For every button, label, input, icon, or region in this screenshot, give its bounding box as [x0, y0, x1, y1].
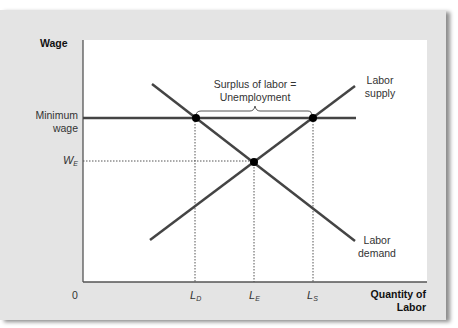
labor-supply-label-line2: supply — [360, 87, 400, 100]
labor-demand-label: Labor demand — [354, 234, 400, 260]
x-axis-label-line1: Quantity of — [360, 288, 426, 301]
equilibrium-point — [250, 158, 258, 166]
y-axis-label: Wage — [40, 37, 68, 50]
surplus-annotation-line2: Unemployment — [205, 91, 305, 104]
labor-supply-label: Labor supply — [360, 74, 400, 100]
le-label: LE — [249, 289, 260, 305]
ls-label: LS — [307, 289, 318, 305]
labor-supply-label-line1: Labor — [360, 74, 400, 87]
ld-label: LD — [190, 289, 201, 305]
we-main: W — [63, 154, 73, 166]
we-label: WE — [58, 154, 78, 170]
supply-min-wage-point — [309, 114, 317, 122]
x-axis-label: Quantity of Labor — [360, 288, 426, 314]
origin-label: 0 — [72, 289, 78, 302]
x-axis-label-line2: Labor — [360, 301, 426, 314]
surplus-annotation: Surplus of labor = Unemployment — [205, 78, 305, 104]
minimum-wage-label-line2: wage — [20, 122, 78, 135]
ls-sub: S — [313, 295, 318, 302]
minimum-wage-label: Minimum wage — [20, 109, 78, 135]
labor-demand-label-line2: demand — [354, 247, 400, 260]
ld-sub: D — [196, 295, 201, 302]
minimum-wage-label-line1: Minimum — [20, 109, 78, 122]
labor-demand-label-line1: Labor — [354, 234, 400, 247]
we-sub: E — [73, 160, 78, 167]
demand-min-wage-point — [192, 114, 200, 122]
le-sub: E — [255, 295, 260, 302]
surplus-annotation-line1: Surplus of labor = — [205, 78, 305, 91]
